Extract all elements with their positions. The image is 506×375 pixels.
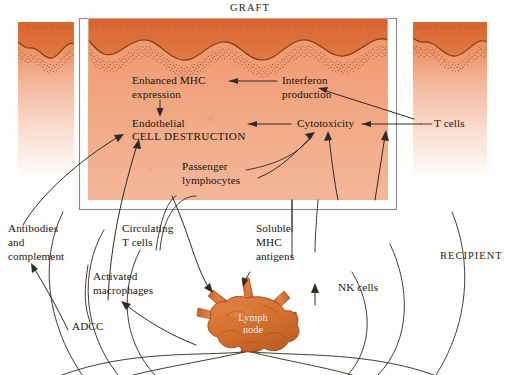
label-activated-macrophages-line2: macrophages	[93, 284, 153, 297]
label-passenger-lymphocytes-line2: lymphocytes	[182, 174, 240, 187]
label-passenger-lymphocytes-line1: Passenger	[182, 160, 228, 173]
graft-rejection-diagram: GRAFT Enhanced MHC expression Endothelia…	[0, 0, 506, 375]
leader-nk-cells	[315, 200, 318, 252]
arrow-node-to-macrophages	[126, 305, 196, 345]
circulation-arc-left-2	[88, 230, 118, 375]
circulation-arc-right-2	[378, 244, 404, 375]
label-nk-cells: NK cells	[338, 281, 378, 294]
node-efferent-right-inner	[251, 352, 352, 375]
label-lymph-node-line1: Lymph	[228, 312, 278, 323]
left-graft-panel	[18, 22, 74, 182]
label-antibodies-line3: complement	[8, 250, 64, 263]
label-endothelial: Endothelial	[132, 117, 185, 130]
label-soluble-mhc-line1: Soluble	[256, 222, 291, 235]
label-soluble-mhc-line3: antigens	[256, 250, 294, 263]
label-circulating-t-cells-line1: Circulating	[122, 222, 173, 235]
circulation-arc-left-1	[49, 212, 82, 375]
center-graft-panel	[88, 18, 388, 200]
node-efferent-right-outer	[253, 352, 434, 375]
label-t-cells: T cells	[434, 117, 465, 130]
label-cytotoxicity: Cytotoxicity	[297, 117, 354, 130]
graft-title: GRAFT	[230, 2, 270, 14]
label-interferon-line2: production	[282, 88, 331, 101]
label-enhanced-mhc-line1: Enhanced MHC	[132, 74, 206, 87]
node-efferent-left-outer	[62, 352, 243, 375]
label-antibodies-line2: and	[8, 236, 24, 249]
label-adcc: ADCC	[72, 320, 103, 333]
label-lymph-node-line2: node	[228, 324, 278, 335]
label-enhanced-mhc-line2: expression	[132, 88, 181, 101]
label-cell-destruction: CELL DESTRUCTION	[132, 130, 246, 143]
label-circulating-t-cells-line2: T cells	[122, 236, 153, 249]
label-activated-macrophages-line1: Activated	[93, 270, 137, 283]
label-antibodies-line1: Antibodies	[8, 222, 58, 235]
circulation-arc-right-1	[436, 212, 465, 375]
node-efferent-left-inner	[133, 352, 245, 375]
label-soluble-mhc-line2: MHC	[256, 236, 282, 249]
right-graft-panel	[413, 22, 487, 182]
label-interferon-line1: Interferon	[282, 74, 328, 87]
label-recipient: RECIPIENT	[440, 250, 503, 262]
